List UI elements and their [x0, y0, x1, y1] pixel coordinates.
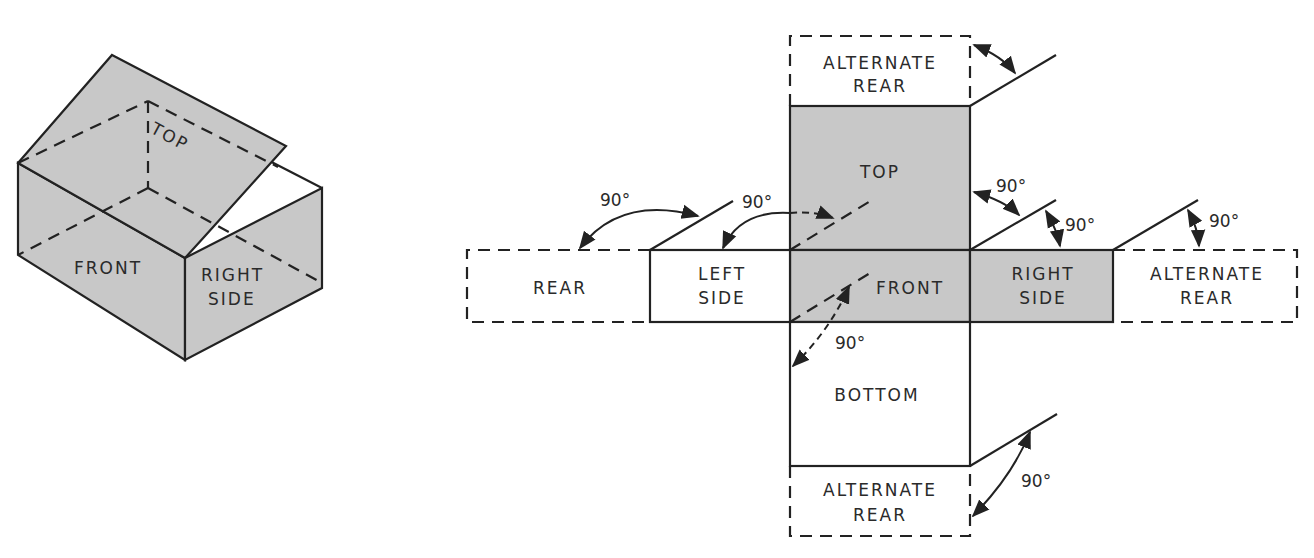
label-bottom: BOTTOM — [834, 385, 919, 405]
label-alt-rear-bottom-1: ALTERNATE — [823, 480, 937, 500]
label-top: TOP — [859, 162, 900, 182]
angle-top-to-right: 90° — [996, 176, 1026, 196]
label-alt-rear-right-1: ALTERNATE — [1150, 264, 1264, 284]
box-label-right-line1: RIGHT — [201, 265, 264, 285]
label-alt-rear-top-2: REAR — [853, 76, 907, 96]
angle-rear-fold: 90° — [600, 190, 630, 210]
angle-right-side-fold: 90° — [1065, 215, 1095, 235]
label-left-side-2: SIDE — [698, 288, 746, 308]
panel-left-side — [650, 250, 790, 322]
arc-right-side-fold — [1046, 211, 1060, 246]
arc-left-side-fold — [723, 213, 790, 248]
arc-rear-fold — [580, 210, 698, 248]
isometric-box: TOP FRONT RIGHT SIDE — [18, 55, 322, 360]
label-alt-rear-top-1: ALTERNATE — [823, 53, 937, 73]
panel-alternate-rear-bottom — [790, 466, 970, 536]
unfolded-net: 90° 90° 90° 90° 90° 90° 90° ALTERNATE RE… — [467, 36, 1297, 536]
angle-alt-rear-right-fold: 90° — [1209, 211, 1239, 231]
angle-left-side-fold: 90° — [742, 192, 772, 212]
angle-front-bottom-fold: 90° — [835, 333, 865, 353]
label-alt-rear-right-2: REAR — [1180, 288, 1234, 308]
panel-alternate-rear-right — [1113, 250, 1297, 322]
arc-alt-rear-right-fold — [1188, 210, 1199, 246]
box-label-right-line2: SIDE — [208, 289, 256, 309]
label-left-side-1: LEFT — [698, 264, 746, 284]
label-rear: REAR — [533, 278, 587, 298]
label-right-side-1: RIGHT — [1011, 264, 1074, 284]
label-front: FRONT — [876, 278, 944, 298]
panel-right-side — [970, 250, 1113, 322]
label-right-side-2: SIDE — [1019, 288, 1067, 308]
box-label-front: FRONT — [74, 258, 142, 278]
angle-alt-rear-bottom-fold: 90° — [1021, 471, 1051, 491]
arc-alt-rear-top-fold — [974, 45, 1015, 73]
label-alt-rear-bottom-2: REAR — [853, 505, 907, 525]
orthographic-projection-diagram: TOP FRONT RIGHT SIDE — [0, 0, 1314, 558]
